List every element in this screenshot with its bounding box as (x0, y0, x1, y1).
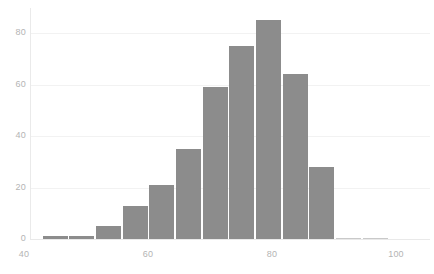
histogram-bar (309, 167, 334, 239)
histogram-bar (149, 185, 174, 239)
y-axis-tick: 80 (0, 28, 26, 38)
y-axis-tick-label: 40 (4, 131, 26, 140)
x-axis-tick: 100 (376, 250, 416, 259)
histogram-bar (336, 238, 361, 240)
histogram-bar (43, 236, 68, 239)
histogram-bar (363, 238, 388, 240)
y-axis-tick-label: 0 (4, 234, 26, 243)
histogram-bar (69, 236, 94, 239)
y-gridline (30, 239, 430, 240)
y-axis-spine (30, 8, 31, 239)
x-axis-tick: 60 (128, 250, 168, 259)
y-axis-tick: 60 (0, 80, 26, 90)
x-axis-tick-label: 100 (376, 250, 416, 259)
x-axis-tick-label: 60 (128, 250, 168, 259)
histogram-bar (256, 20, 281, 239)
y-gridline (30, 33, 430, 34)
histogram-bar (203, 87, 228, 239)
histogram-bar (96, 226, 121, 239)
histogram-bar (123, 206, 148, 239)
x-axis-tick-label: 40 (4, 250, 44, 259)
y-axis-tick: 0 (0, 234, 26, 244)
histogram-chart: 020406080406080100 (0, 0, 434, 274)
plot-area: 020406080406080100 (0, 0, 434, 274)
x-axis-tick: 80 (252, 250, 292, 259)
y-axis-tick-label: 60 (4, 80, 26, 89)
y-axis-tick-label: 80 (4, 28, 26, 37)
y-axis-tick: 40 (0, 131, 26, 141)
x-axis-tick-label: 80 (252, 250, 292, 259)
histogram-bar (283, 74, 308, 239)
y-axis-tick: 20 (0, 183, 26, 193)
x-axis-tick: 40 (4, 250, 44, 259)
histogram-bar (229, 46, 254, 239)
y-axis-tick-label: 20 (4, 183, 26, 192)
histogram-bar (176, 149, 201, 239)
